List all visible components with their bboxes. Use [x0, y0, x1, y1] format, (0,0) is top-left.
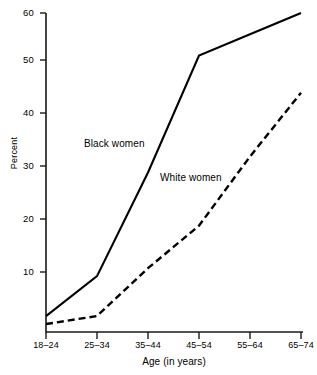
y-tick-label-60: 60 [8, 7, 34, 18]
series-line-white-women [46, 93, 301, 324]
y-tick-label-20: 20 [8, 213, 34, 224]
x-axis-title: Age (in years) [46, 356, 302, 367]
y-tick-label-10: 10 [8, 266, 34, 277]
x-tick-label-55-64: 55–64 [224, 340, 276, 350]
y-tick-label-50: 50 [8, 54, 34, 65]
y-axis-title: Percent [9, 123, 19, 183]
x-axis-ticks [46, 332, 301, 339]
y-tick-label-40: 40 [8, 107, 34, 118]
y-axis-ticks [40, 13, 46, 272]
chart-container: Percent 60 50 40 30 20 10 18–24 25–34 35… [0, 0, 317, 375]
series-annotation-white-women: White women [160, 172, 222, 183]
series-line-black-women [46, 13, 301, 316]
x-tick-label-25-34: 25–34 [71, 340, 123, 350]
x-tick-label-35-44: 35–44 [122, 340, 174, 350]
series-annotation-black-women: Black women [84, 138, 145, 149]
line-chart-plot [0, 0, 317, 375]
x-tick-label-65-74: 65–74 [275, 340, 317, 350]
x-tick-label-45-54: 45–54 [173, 340, 225, 350]
x-tick-label-18-24: 18–24 [20, 340, 72, 350]
y-tick-label-30: 30 [8, 160, 34, 171]
